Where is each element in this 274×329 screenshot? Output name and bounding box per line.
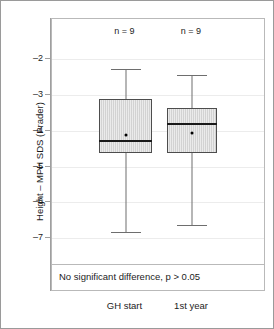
gridline: [52, 95, 264, 96]
x-axis-tick-label: 1st year: [174, 300, 208, 311]
gridline: [52, 238, 264, 239]
whisker-upper: [192, 75, 193, 108]
y-axis-tick: [45, 58, 50, 59]
whisker-cap-lower: [177, 225, 207, 226]
y-axis-tick-label: –6: [1, 196, 43, 206]
whisker-lower: [192, 153, 193, 225]
y-axis-tick: [45, 237, 50, 238]
gridline: [52, 202, 264, 203]
y-axis-tick: [45, 130, 50, 131]
y-axis-tick-label: –5: [1, 161, 43, 171]
plot-area: [51, 18, 265, 291]
annotation-divider: [52, 264, 264, 265]
figure-container: Height – MPH SDS (Prader) –2–3–4–5–6–7n …: [0, 0, 274, 329]
gridline: [52, 131, 264, 132]
mean-marker: [191, 131, 194, 134]
y-axis-tick-label: –2: [1, 53, 43, 63]
x-axis-tick-label: GH start: [107, 300, 142, 311]
y-axis-tick-label: –3: [1, 89, 43, 99]
gridline: [52, 167, 264, 168]
box-iqr: [99, 99, 152, 153]
whisker-cap-upper: [111, 69, 141, 70]
boxplot-gh-start: [99, 19, 152, 292]
whisker-upper: [125, 69, 126, 98]
y-axis-tick-label: –7: [1, 232, 43, 242]
n-count-label: n = 9: [114, 26, 134, 36]
whisker-cap-lower: [111, 232, 141, 233]
whisker-cap-upper: [177, 75, 207, 76]
n-count-label: n = 9: [181, 26, 201, 36]
median-line: [99, 140, 152, 142]
y-axis-tick: [45, 94, 50, 95]
significance-annotation: No significant difference, p > 0.05: [59, 271, 200, 282]
y-axis-tick-label: –4: [1, 125, 43, 135]
y-axis-tick: [45, 201, 50, 202]
mean-marker: [124, 134, 127, 137]
median-line: [167, 123, 217, 125]
whisker-lower: [125, 153, 126, 232]
gridline: [52, 59, 264, 60]
y-axis-tick: [45, 166, 50, 167]
boxplot-1st-year: [167, 19, 217, 292]
